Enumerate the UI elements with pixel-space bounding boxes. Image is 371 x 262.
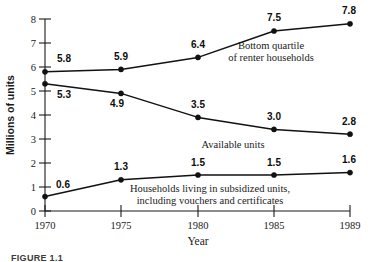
data-point-available-units-1970 xyxy=(42,81,47,86)
data-label-bottom-quartile-1970: 5.8 xyxy=(57,53,71,64)
data-label-available-units-1985: 3.0 xyxy=(267,111,281,122)
data-label-available-units-1980: 3.5 xyxy=(191,99,205,110)
data-point-available-units-1980 xyxy=(195,115,200,120)
annotation-bottom-quartile-line2: of renter households xyxy=(228,52,314,63)
data-point-bottom-quartile-1975 xyxy=(118,67,123,72)
y-tick-label-5: 5 xyxy=(31,86,36,97)
data-label-bottom-quartile-1975: 5.9 xyxy=(114,51,128,62)
x-axis-title: Year xyxy=(187,235,208,247)
x-tick-label-1985: 1985 xyxy=(264,220,285,231)
y-tick-label-1: 1 xyxy=(31,182,36,193)
data-point-bottom-quartile-1989 xyxy=(347,21,352,26)
data-label-bottom-quartile-1980: 6.4 xyxy=(191,39,205,50)
data-label-available-units-1970: 5.3 xyxy=(57,89,71,100)
x-tick-label-1989: 1989 xyxy=(340,220,361,231)
annotation-available-units: Available units xyxy=(201,139,264,150)
data-label-subsidized-units-1975: 1.3 xyxy=(114,161,128,172)
annotation-subsidized-units-line1: Households living in subsidized units, xyxy=(130,183,290,194)
data-label-subsidized-units-1989: 1.6 xyxy=(342,154,356,165)
x-tick-label-1970: 1970 xyxy=(35,220,56,231)
data-label-available-units-1989: 2.8 xyxy=(342,116,356,127)
annotation-subsidized-units-line2: including vouchers and certificates xyxy=(137,195,284,206)
data-point-available-units-1989 xyxy=(347,132,352,137)
y-tick-label-8: 8 xyxy=(31,14,36,25)
data-point-subsidized-units-1989 xyxy=(347,170,352,175)
annotation-bottom-quartile-line1: Bottom quartile xyxy=(238,40,305,51)
y-tick-label-7: 7 xyxy=(31,38,36,49)
y-tick-label-0: 0 xyxy=(31,206,36,217)
x-tick-label-1980: 1980 xyxy=(188,220,209,231)
data-point-subsidized-units-1985 xyxy=(271,172,276,177)
data-point-subsidized-units-1975 xyxy=(118,177,123,182)
data-point-available-units-1975 xyxy=(118,91,123,96)
y-tick-label-6: 6 xyxy=(31,62,36,73)
data-point-available-units-1985 xyxy=(271,127,276,132)
data-label-subsidized-units-1985: 1.5 xyxy=(267,157,281,168)
data-label-available-units-1975: 4.9 xyxy=(110,98,124,109)
figure-caption: FIGURE 1.1 xyxy=(11,253,63,262)
data-label-subsidized-units-1970: 0.6 xyxy=(56,179,70,190)
data-point-subsidized-units-1980 xyxy=(195,172,200,177)
y-tick-label-2: 2 xyxy=(31,158,36,169)
data-point-bottom-quartile-1980 xyxy=(195,55,200,60)
data-point-subsidized-units-1970 xyxy=(42,194,47,199)
x-tick-label-1975: 1975 xyxy=(111,220,132,231)
data-label-bottom-quartile-1985: 7.5 xyxy=(267,12,281,23)
y-tick-label-4: 4 xyxy=(31,110,37,121)
data-point-bottom-quartile-1985 xyxy=(271,28,276,33)
data-point-bottom-quartile-1970 xyxy=(42,69,47,74)
data-label-subsidized-units-1980: 1.5 xyxy=(191,157,205,168)
data-label-bottom-quartile-1989: 7.8 xyxy=(342,5,356,16)
y-tick-label-3: 3 xyxy=(31,134,36,145)
y-axis-title: Millions of units xyxy=(4,75,16,155)
